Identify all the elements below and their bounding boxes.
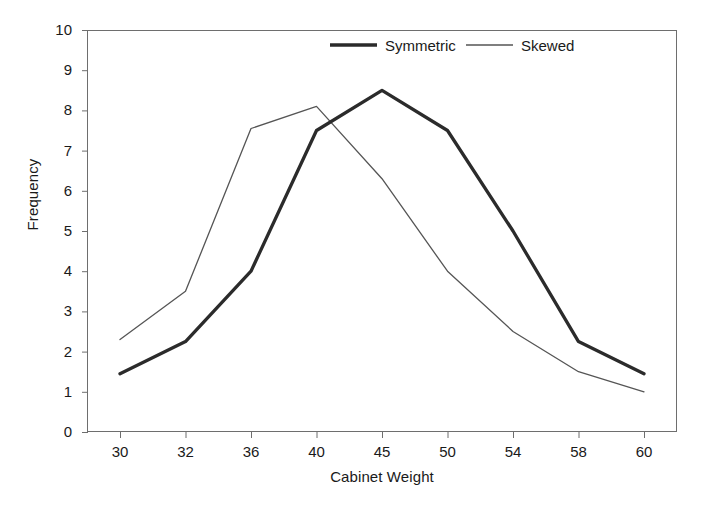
x-axis-tick-label: 36 <box>226 444 276 459</box>
x-axis-tick-label: 50 <box>423 444 473 459</box>
y-axis-tick-label: 1 <box>32 384 72 399</box>
x-axis-ticks <box>121 432 645 438</box>
y-axis-tick-label: 10 <box>32 22 72 37</box>
legend-label-skewed: Skewed <box>521 38 574 53</box>
legend-label-symmetric: Symmetric <box>385 38 456 53</box>
frequency-line-chart: 012345678910 303236404550545860 Frequenc… <box>0 0 706 506</box>
x-axis-tick-label: 30 <box>95 444 145 459</box>
plot-canvas <box>0 0 706 506</box>
x-axis-title: Cabinet Weight <box>120 468 644 485</box>
y-axis-tick-label: 2 <box>32 344 72 359</box>
y-axis-title: Frequency <box>24 115 41 275</box>
y-axis-tick-label: 9 <box>32 62 72 77</box>
y-axis-tick-label: 0 <box>32 424 72 439</box>
x-axis-tick-label: 60 <box>619 444 669 459</box>
x-axis-tick-label: 58 <box>554 444 604 459</box>
x-axis-tick-label: 45 <box>357 444 407 459</box>
x-axis-tick-label: 54 <box>488 444 538 459</box>
y-axis-tick-label: 3 <box>32 303 72 318</box>
x-axis-tick-label: 32 <box>161 444 211 459</box>
x-axis-tick-label: 40 <box>292 444 342 459</box>
